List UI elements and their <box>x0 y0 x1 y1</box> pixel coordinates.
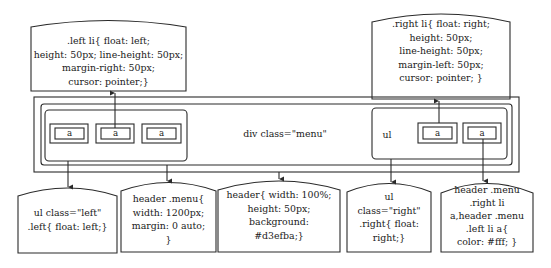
callout-line: ul class="left" <box>18 206 117 220</box>
callout-ul-right: ul class="right" .right{ float: right;} <box>347 190 431 244</box>
callout-link-color: header .menu .right li a,header .menu .l… <box>441 183 533 248</box>
callout-menu: header .menu{ width: 1200px; margin: 0 a… <box>121 192 216 246</box>
callout-line: color: #fff; } <box>441 235 533 248</box>
link-a-left-1: a <box>55 127 84 139</box>
callout-line: } <box>121 233 216 247</box>
callout-line: .left{ float: left;} <box>18 220 117 234</box>
callout-line: width: 1200px; <box>121 206 216 220</box>
callout-line: height: 50px; <box>218 202 340 216</box>
ul-right-label: ul <box>380 129 394 141</box>
callout-line: .right{ float: <box>347 217 431 231</box>
callout-line: margin-left: 50px; <box>372 58 510 72</box>
callout-line: cursor: pointer;} <box>31 75 186 89</box>
callout-line: height: 50px; line-height: 50px; <box>31 48 186 62</box>
callout-line: .left li{ float: left; <box>31 34 186 48</box>
menu-div-label: div class="menu" <box>230 128 340 140</box>
link-a-right-2: a <box>468 127 496 139</box>
callout-header: header{ width: 100%; height: 50px; backg… <box>218 188 340 242</box>
callout-line: right;} <box>347 231 431 245</box>
callout-line: margin: 0 auto; <box>121 219 216 233</box>
callout-line: .right li <box>441 196 533 209</box>
callout-line: margin-right: 50px; <box>31 61 186 75</box>
callout-line: class="right" <box>347 204 431 218</box>
callout-line: header .menu{ <box>121 192 216 206</box>
callout-line: header .menu <box>441 183 533 196</box>
callout-line: ul <box>347 190 431 204</box>
callout-line: header{ width: 100%; <box>218 188 340 202</box>
link-a-left-2: a <box>101 127 130 139</box>
callout-ul-left: ul class="left" .left{ float: left;} <box>18 206 117 233</box>
callout-left-li: .left li{ float: left; height: 50px; lin… <box>31 34 186 88</box>
callout-line: line-height: 50px; <box>372 44 510 58</box>
callout-right-li: .right li{ float: right; height: 50px; l… <box>372 17 510 85</box>
link-a-left-3: a <box>147 127 176 139</box>
callout-line: .left li a{ <box>441 222 533 235</box>
callout-line: #d3efba;} <box>218 229 340 243</box>
callout-line: a,header .menu <box>441 209 533 222</box>
callout-line: height: 50px; <box>372 31 510 45</box>
callout-line: background: <box>218 215 340 229</box>
callout-line: .right li{ float: right; <box>372 17 510 31</box>
link-a-right-1: a <box>423 127 452 139</box>
callout-line: cursor: pointer; } <box>372 71 510 85</box>
